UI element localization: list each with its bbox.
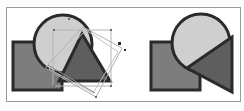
handle-bottom-right[interactable] [110, 85, 112, 87]
handle-top-left[interactable] [53, 29, 55, 31]
rotate-handle[interactable] [118, 42, 121, 45]
handle-bottom[interactable] [95, 96, 97, 98]
rotate-handle-end[interactable] [124, 49, 126, 51]
handle-top[interactable] [68, 18, 70, 20]
handle-left[interactable] [45, 67, 47, 69]
handle-bottom-left[interactable] [53, 85, 55, 87]
handle-top-right[interactable] [110, 29, 112, 31]
shapes-canvas [0, 0, 244, 111]
diagram-stage [0, 0, 244, 111]
